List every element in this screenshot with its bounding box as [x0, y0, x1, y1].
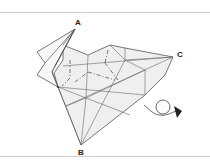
label-a: A: [75, 19, 81, 27]
arrowhead-icon: [174, 106, 182, 118]
turn-over-arrow-icon: [144, 100, 176, 115]
node-dot: [57, 86, 59, 88]
label-b: B: [78, 149, 84, 157]
label-c: C: [177, 51, 183, 59]
origami-diagram: [0, 0, 210, 168]
model-body: [54, 45, 173, 145]
